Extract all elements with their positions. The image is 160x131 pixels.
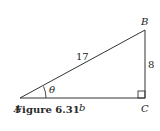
figure-caption: Figure 6.31 bbox=[15, 104, 80, 115]
adjacent-side-label: b bbox=[79, 102, 85, 113]
angle-theta-label: θ bbox=[49, 84, 55, 95]
hypotenuse-label: 17 bbox=[76, 51, 89, 62]
opposite-side-label: 8 bbox=[148, 59, 154, 70]
vertex-b-label: B bbox=[140, 16, 148, 27]
vertex-c-label: C bbox=[141, 103, 149, 114]
right-angle-marker bbox=[138, 91, 145, 98]
angle-arc bbox=[44, 87, 47, 99]
triangle bbox=[20, 30, 145, 98]
